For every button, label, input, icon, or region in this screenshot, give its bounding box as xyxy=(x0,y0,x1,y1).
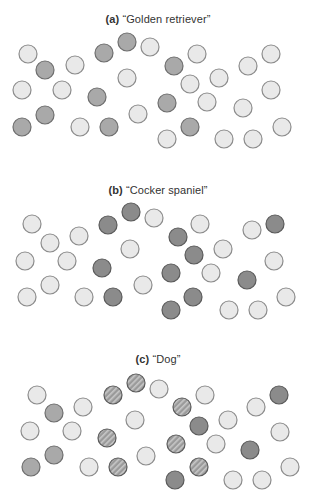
light-circle xyxy=(80,458,98,476)
cocker-spaniel-circle xyxy=(241,441,259,459)
light-circle xyxy=(150,380,168,398)
cocker-spaniel-circle xyxy=(104,288,122,306)
light-circle xyxy=(207,435,225,453)
light-circle xyxy=(19,45,37,63)
light-circle xyxy=(16,252,34,270)
light-circle xyxy=(273,118,291,136)
panel-a-circles xyxy=(13,33,291,148)
cocker-spaniel-circle xyxy=(270,386,288,404)
light-circle xyxy=(71,118,89,136)
light-circle xyxy=(126,411,144,429)
light-circle xyxy=(13,81,31,99)
striped-circle xyxy=(127,374,145,392)
striped-circle xyxy=(167,435,185,453)
light-circle xyxy=(224,471,242,489)
cocker-spaniel-circle xyxy=(166,471,184,489)
cocker-spaniel-circle xyxy=(266,215,284,233)
cocker-spaniel-circle xyxy=(162,264,180,282)
golden-retriever-circle xyxy=(88,88,106,106)
light-circle xyxy=(41,276,59,294)
light-circle xyxy=(137,447,155,465)
light-circle xyxy=(214,240,232,258)
light-circle xyxy=(253,471,271,489)
golden-retriever-circle xyxy=(158,94,176,112)
light-circle xyxy=(129,105,147,123)
light-circle xyxy=(23,215,41,233)
light-circle xyxy=(220,301,238,319)
light-circle xyxy=(66,56,84,74)
cocker-spaniel-circle xyxy=(122,203,140,221)
light-circle xyxy=(181,75,199,93)
cocker-spaniel-circle xyxy=(169,228,187,246)
light-circle xyxy=(234,99,252,117)
light-circle xyxy=(262,45,280,63)
golden-retriever-circle xyxy=(45,404,63,422)
light-circle xyxy=(158,130,176,148)
light-circle xyxy=(219,411,237,429)
golden-retriever-circle xyxy=(22,458,40,476)
cocker-spaniel-circle xyxy=(185,246,203,264)
cocker-spaniel-circle xyxy=(93,259,111,277)
striped-circle xyxy=(98,429,116,447)
light-circle xyxy=(262,81,280,99)
striped-circle xyxy=(173,398,191,416)
golden-retriever-circle xyxy=(13,118,31,136)
light-circle xyxy=(118,69,136,87)
light-circle xyxy=(196,386,214,404)
cocker-spaniel-circle xyxy=(99,216,117,234)
striped-circle xyxy=(190,458,208,476)
cocker-spaniel-circle xyxy=(184,288,202,306)
light-circle xyxy=(215,130,233,148)
light-circle xyxy=(145,209,163,227)
circle-field xyxy=(0,0,316,503)
striped-circle xyxy=(104,386,122,404)
golden-retriever-circle xyxy=(165,57,183,75)
light-circle xyxy=(191,215,209,233)
panel-c-circles xyxy=(21,374,299,489)
light-circle xyxy=(277,288,295,306)
light-circle xyxy=(210,69,228,87)
cocker-spaniel-circle xyxy=(238,271,256,289)
striped-circle xyxy=(109,458,127,476)
light-circle xyxy=(70,227,88,245)
light-circle xyxy=(53,81,71,99)
light-circle xyxy=(28,386,46,404)
light-circle xyxy=(63,422,81,440)
light-circle xyxy=(141,38,159,56)
light-circle xyxy=(243,221,261,239)
light-circle xyxy=(21,422,39,440)
cocker-spaniel-circle xyxy=(190,417,208,435)
light-circle xyxy=(247,398,265,416)
panel-b-circles xyxy=(16,203,295,319)
light-circle xyxy=(249,301,267,319)
light-circle xyxy=(75,288,93,306)
light-circle xyxy=(74,398,92,416)
light-circle xyxy=(239,57,257,75)
light-circle xyxy=(18,288,36,306)
light-circle xyxy=(58,252,76,270)
golden-retriever-circle xyxy=(95,44,113,62)
golden-retriever-circle xyxy=(181,118,199,136)
golden-retriever-circle xyxy=(100,118,118,136)
light-circle xyxy=(41,234,59,252)
light-circle xyxy=(134,276,152,294)
light-circle xyxy=(244,130,262,148)
golden-retriever-circle xyxy=(45,446,63,464)
light-circle xyxy=(198,93,216,111)
light-circle xyxy=(271,423,289,441)
light-circle xyxy=(265,252,283,270)
golden-retriever-circle xyxy=(36,106,54,124)
golden-retriever-circle xyxy=(118,33,136,51)
cocker-spaniel-circle xyxy=(162,301,180,319)
light-circle xyxy=(281,458,299,476)
light-circle xyxy=(188,45,206,63)
light-circle xyxy=(202,264,220,282)
golden-retriever-circle xyxy=(36,61,54,79)
light-circle xyxy=(121,240,139,258)
